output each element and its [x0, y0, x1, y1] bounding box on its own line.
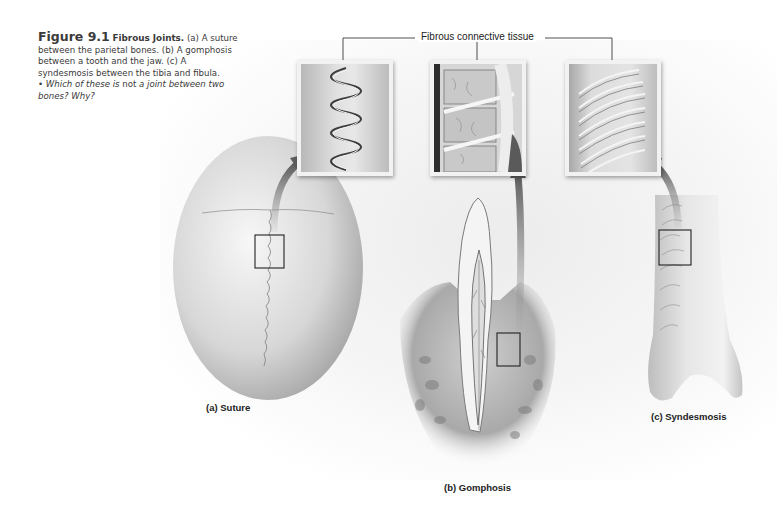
tibia-illustration: [645, 158, 743, 400]
suture-detail-image: [301, 64, 389, 172]
inset-syndesmosis: [565, 60, 661, 176]
callout-label-fibrous-tissue: Fibrous connective tissue: [418, 31, 537, 42]
panel-label-syndesmosis: (c) Syndesmosis: [651, 411, 727, 422]
inset-suture: [297, 60, 393, 176]
panel-label-gomphosis: (b) Gomphosis: [444, 482, 511, 493]
panel-label-suture: (a) Suture: [206, 402, 250, 413]
syndesmosis-detail-image: [569, 64, 657, 172]
gomphosis-detail-image: [434, 64, 522, 172]
inset-gomphosis: [430, 60, 526, 176]
tooth-illustration: [400, 160, 556, 468]
